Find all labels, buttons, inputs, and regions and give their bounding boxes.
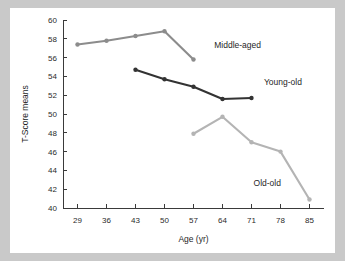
- y-tick-label: 56: [48, 54, 57, 63]
- data-point: [307, 197, 311, 201]
- series-label-young-old: Young-old: [264, 77, 302, 87]
- x-tick-label: 78: [276, 216, 285, 225]
- series-line-young-old: [136, 70, 252, 99]
- data-point: [191, 85, 195, 89]
- x-tick-label: 43: [131, 216, 140, 225]
- y-tick-label: 46: [48, 148, 57, 157]
- y-tick-label: 58: [48, 35, 57, 44]
- data-point: [104, 38, 108, 42]
- x-tick-label: 50: [160, 216, 169, 225]
- line-chart: 4042444648505254565860293643505764717885…: [10, 8, 335, 253]
- data-point: [191, 132, 195, 136]
- series-label-old-old: Old-old: [254, 178, 282, 188]
- figure-root: 4042444648505254565860293643505764717885…: [0, 0, 345, 261]
- y-tick-label: 60: [48, 16, 57, 25]
- y-tick-label: 50: [48, 110, 57, 119]
- y-tick-label: 52: [48, 91, 57, 100]
- data-point: [162, 77, 166, 81]
- data-point: [75, 42, 79, 46]
- data-point: [249, 96, 253, 100]
- series-line-old-old: [194, 117, 310, 200]
- x-tick-label: 36: [102, 216, 111, 225]
- data-point: [133, 34, 137, 38]
- data-point: [220, 115, 224, 119]
- x-tick-label: 57: [189, 216, 198, 225]
- data-point: [278, 149, 282, 153]
- y-tick-label: 48: [48, 129, 57, 138]
- data-point: [220, 97, 224, 101]
- series-label-middle-aged: Middle-aged: [214, 40, 261, 50]
- y-tick-label: 44: [48, 166, 57, 175]
- data-point: [249, 140, 253, 144]
- y-tick-label: 42: [48, 185, 57, 194]
- data-point: [162, 29, 166, 33]
- y-tick-label: 54: [48, 72, 57, 81]
- x-tick-label: 71: [247, 216, 256, 225]
- data-point: [191, 57, 195, 61]
- plot-card: 4042444648505254565860293643505764717885…: [10, 8, 335, 253]
- data-point: [133, 68, 137, 72]
- x-tick-label: 29: [73, 216, 82, 225]
- y-axis-title: T-Score means: [20, 85, 30, 143]
- x-tick-label: 85: [305, 216, 314, 225]
- x-axis-title: Age (yr): [178, 234, 208, 244]
- x-tick-label: 64: [218, 216, 227, 225]
- y-tick-label: 40: [48, 204, 57, 213]
